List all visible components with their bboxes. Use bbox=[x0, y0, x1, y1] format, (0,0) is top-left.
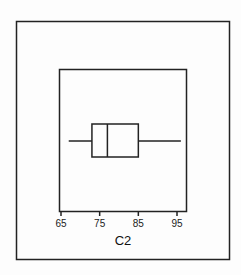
x-axis-ticks: 65758595 bbox=[55, 211, 183, 229]
x-tick-label: 65 bbox=[55, 218, 67, 229]
outer-frame bbox=[17, 22, 230, 260]
x-axis-title: C2 bbox=[115, 233, 132, 248]
x-tick-label: 95 bbox=[171, 218, 183, 229]
boxplot-figure: 65758595 C2 bbox=[0, 0, 241, 275]
iqr-box bbox=[92, 124, 138, 157]
x-tick-label: 75 bbox=[94, 218, 106, 229]
x-tick-label: 85 bbox=[133, 218, 145, 229]
box-plot-c2 bbox=[69, 124, 181, 157]
